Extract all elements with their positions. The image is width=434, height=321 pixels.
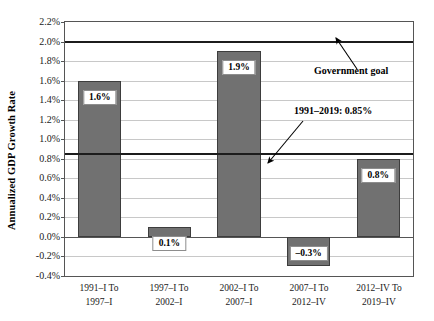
y-tick-label: 0.2% xyxy=(26,211,60,222)
government-goal-annotation: Government goal xyxy=(314,65,388,76)
x-category-label-line: 2019–IV xyxy=(344,295,414,309)
zero-line xyxy=(65,237,413,238)
y-tick-mark xyxy=(61,178,65,179)
y-tick-label: 1.6% xyxy=(26,74,60,85)
y-tick-label: 0.6% xyxy=(26,172,60,183)
y-tick-mark xyxy=(61,81,65,82)
y-tick-label: 0.4% xyxy=(26,191,60,202)
y-tick-mark xyxy=(61,120,65,121)
y-tick-mark xyxy=(61,139,65,140)
x-category-label: 2012–IV To2019–IV xyxy=(344,281,414,321)
y-tick-mark xyxy=(61,159,65,160)
bar[interactable] xyxy=(217,51,260,237)
bar-value-label: 1.6% xyxy=(83,90,116,105)
y-tick-mark xyxy=(61,217,65,218)
y-tick-label: 1.0% xyxy=(26,133,60,144)
y-tick-label: -0.4% xyxy=(26,270,60,281)
x-category-label: 2002–I To2007–I xyxy=(204,281,274,321)
gridline xyxy=(65,256,413,257)
y-tick-label: 2.0% xyxy=(26,35,60,46)
x-category-label-line: 2012–IV To xyxy=(344,281,414,295)
x-category-label: 1997–I To2002–I xyxy=(134,281,204,321)
y-tick-mark xyxy=(61,61,65,62)
x-axis-category-labels: 1991–I To1997–I1997–I To2002–I2002–I To2… xyxy=(64,281,414,321)
chart-figure: Annualized GDP Growth Rate 2.2%2.0%1.8%1… xyxy=(0,0,434,321)
y-tick-label: 1.2% xyxy=(26,113,60,124)
y-tick-label: -0.2% xyxy=(26,250,60,261)
y-tick-label: 0.0% xyxy=(26,230,60,241)
bar-value-label: 1.9% xyxy=(222,60,255,75)
x-category-label-line: 2007–I To xyxy=(274,281,344,295)
y-tick-mark xyxy=(61,42,65,43)
y-tick-mark xyxy=(61,198,65,199)
y-axis-tick-labels: 2.2%2.0%1.8%1.6%1.4%1.2%1.0%0.8%0.6%0.4%… xyxy=(26,0,60,321)
y-tick-label: 2.2% xyxy=(26,16,60,27)
average-annotation: 1991–2019: 0.85% xyxy=(294,105,372,116)
x-category-label-line: 1997–I xyxy=(64,295,134,309)
reference-line-average-1991-2019 xyxy=(65,153,413,155)
reference-line-government-goal xyxy=(65,41,413,43)
plot-area: 1.6%0.1%1.9%–0.3%0.8% xyxy=(64,21,414,277)
y-tick-mark xyxy=(61,100,65,101)
bar-value-label: 0.1% xyxy=(153,236,186,251)
bar-value-label: –0.3% xyxy=(290,246,328,261)
y-tick-mark xyxy=(61,237,65,238)
y-tick-label: 0.8% xyxy=(26,152,60,163)
x-category-label: 2007–I To2012–IV xyxy=(274,281,344,321)
y-axis-title: Annualized GDP Growth Rate xyxy=(0,0,22,321)
bar-value-label: 0.8% xyxy=(362,168,395,183)
x-category-label-line: 1991–I To xyxy=(64,281,134,295)
x-category-label: 1991–I To1997–I xyxy=(64,281,134,321)
x-category-label-line: 1997–I To xyxy=(134,281,204,295)
y-tick-mark xyxy=(61,22,65,23)
x-category-label-line: 2012–IV xyxy=(274,295,344,309)
y-tick-mark xyxy=(61,276,65,277)
x-category-label-line: 2007–I xyxy=(204,295,274,309)
y-tick-label: 1.4% xyxy=(26,94,60,105)
y-tick-mark xyxy=(61,256,65,257)
x-category-label-line: 2002–I xyxy=(134,295,204,309)
y-tick-label: 1.8% xyxy=(26,55,60,66)
x-category-label-line: 2002–I To xyxy=(204,281,274,295)
